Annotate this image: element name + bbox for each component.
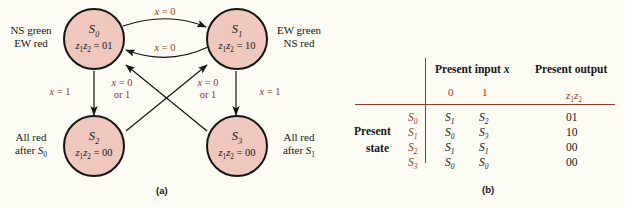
table-row-3-next-0: S0 <box>445 157 455 171</box>
panel-b-caption: (b) <box>482 184 494 195</box>
table-vertical-rule <box>425 58 426 163</box>
state-node-s1-output: z1z2 = 10 <box>218 40 255 55</box>
state-diagram-panel: S0 z1z2 = 01 S1 z1z2 = 10 S2 z1z2 = 00 <box>0 0 330 207</box>
annotation-s2-line1: All red <box>16 131 47 143</box>
figure-root: S0 z1z2 = 01 S1 z1z2 = 10 S2 z1z2 = 00 <box>0 0 625 207</box>
table-subheader-input-1: 1 <box>482 87 488 98</box>
edge-label-s1-to-s0: x = 0 <box>128 42 202 54</box>
annotation-s0-signals: NS green EW red <box>2 24 60 51</box>
table-row-2-next-1: S1 <box>479 142 489 156</box>
table-row-3-next-1: S0 <box>479 157 489 171</box>
table-row-1-output: 10 <box>566 127 578 139</box>
state-node-s1[interactable]: S1 z1z2 = 10 <box>206 8 268 70</box>
edge-s0-to-s1 <box>123 19 206 27</box>
table-subheader-input-0: 0 <box>448 87 454 98</box>
table-header-present-output: Present output <box>535 64 607 76</box>
edge-label-s0-to-s2: x = 1 <box>32 86 88 98</box>
annotation-s0-line2: EW red <box>14 37 48 49</box>
state-table-panel: Present input x Present output 0 1 z1z2 … <box>330 0 625 207</box>
state-node-s2-output: z1z2 = 00 <box>75 147 112 162</box>
table-row-0-next-0: S1 <box>445 112 455 126</box>
edge-label-s1-to-s3: x = 1 <box>242 86 298 98</box>
table-header-present-input: Present input x <box>435 64 510 76</box>
state-node-s3-name: S3 <box>232 130 243 146</box>
annotation-s1-signals: EW green NS red <box>270 24 328 51</box>
table-row-2-state: S2 <box>408 142 418 156</box>
panel-a-caption: (a) <box>156 185 168 196</box>
annotation-s1-line2: NS red <box>284 37 315 49</box>
state-node-s3[interactable]: S3 z1z2 = 00 <box>206 115 268 177</box>
state-node-s0[interactable]: S0 z1z2 = 01 <box>63 8 125 70</box>
state-node-s3-output: z1z2 = 00 <box>218 147 255 162</box>
table-subheader-output: z1z2 <box>566 90 582 104</box>
table-row-header-line1: Present <box>354 126 391 138</box>
table-row-1-state: S1 <box>408 127 418 141</box>
table-row-1-next-0: S0 <box>445 127 455 141</box>
edge-label-s2-to-s1: x = 0or 1 <box>98 77 146 101</box>
annotation-s1-line1: EW green <box>277 24 321 36</box>
edge-label-s0-to-s1: x = 0 <box>128 6 202 18</box>
annotation-s3-line2: after S1 <box>283 144 315 156</box>
annotation-s2-line2: after S0 <box>15 144 47 156</box>
table-row-header-line2: state <box>366 143 389 155</box>
table-row-1-next-1: S3 <box>479 127 489 141</box>
table-row-2-output: 00 <box>566 142 578 154</box>
table-row-3-output: 00 <box>566 157 578 169</box>
state-node-s2[interactable]: S2 z1z2 = 00 <box>63 115 125 177</box>
annotation-s3-line1: All red <box>284 131 315 143</box>
table-row-0-output: 01 <box>566 112 578 124</box>
state-node-s1-name: S1 <box>232 23 243 39</box>
table-row-0-state: S0 <box>408 112 418 126</box>
annotation-s0-line1: NS green <box>10 24 51 36</box>
annotation-s2-signals: All red after S0 <box>2 131 60 160</box>
table-row-3-state: S3 <box>408 157 418 171</box>
table-row-2-next-0: S1 <box>445 142 455 156</box>
edge-label-s3-to-s0: x = 0or 1 <box>184 77 232 101</box>
table-row-0-next-1: S2 <box>479 112 489 126</box>
state-node-s0-name: S0 <box>89 23 100 39</box>
table-horizontal-rule <box>355 104 615 105</box>
state-node-s2-name: S2 <box>89 130 100 146</box>
annotation-s3-signals: All red after S1 <box>270 131 328 160</box>
state-node-s0-output: z1z2 = 01 <box>75 40 112 55</box>
